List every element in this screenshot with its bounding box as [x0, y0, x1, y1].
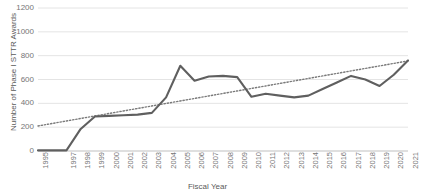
- y-tick-label: 600: [0, 76, 34, 84]
- y-axis-tick-labels: 120010008006004002000: [0, 8, 34, 151]
- x-axis-title: Fiscal Year: [0, 182, 415, 192]
- y-tick-label: 400: [0, 99, 34, 107]
- trendline-series: [38, 61, 408, 126]
- chart-svg: [38, 8, 408, 151]
- y-tick-label: 0: [0, 147, 34, 155]
- data-line-series: [38, 60, 408, 150]
- y-tick-label: 1200: [0, 4, 34, 12]
- y-tick-label: 1000: [0, 28, 34, 36]
- plot-area: [38, 8, 408, 151]
- gridlines: [38, 8, 408, 151]
- y-tick-label: 200: [0, 123, 34, 131]
- y-tick-label: 800: [0, 52, 34, 60]
- x-tick-label: 2021: [412, 152, 423, 180]
- x-tick-label: 1995: [42, 152, 68, 180]
- x-axis-tick-labels: 1995199719981999200020012002200320042005…: [38, 154, 408, 182]
